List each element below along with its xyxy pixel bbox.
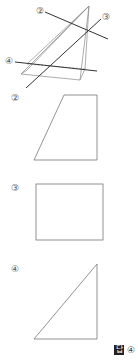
option-4-triangle: [34, 264, 97, 339]
option-label-2: ②: [11, 93, 19, 103]
option-2-trapezoid: [34, 95, 97, 160]
line-3: [26, 19, 101, 88]
option-3-rectangle: [36, 184, 103, 240]
option-label-3: ③: [11, 183, 19, 193]
answer: 답 ④: [114, 345, 135, 355]
line-2: [45, 12, 108, 39]
prism-figure: [0, 0, 138, 360]
line-label-2: ②: [36, 6, 44, 16]
answer-badge: 답: [114, 345, 124, 355]
line-label-4: ④: [5, 56, 13, 66]
line-label-3: ③: [102, 12, 110, 22]
cutting-lines: [15, 12, 108, 88]
answer-value: ④: [127, 345, 135, 355]
option-label-4: ④: [11, 264, 19, 274]
